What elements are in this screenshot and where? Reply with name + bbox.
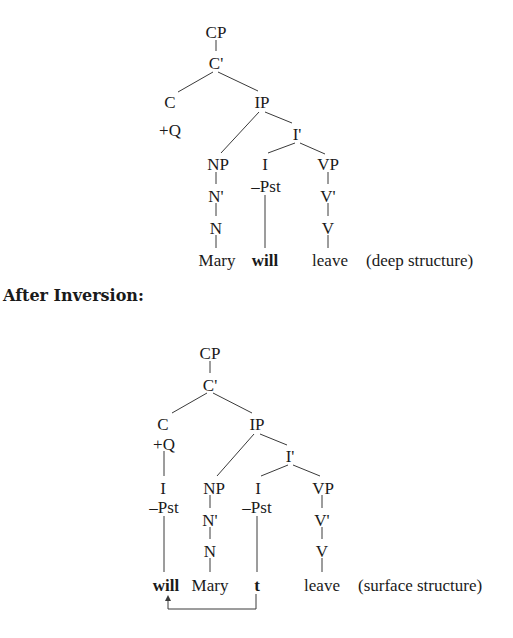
word-mary: Mary [199, 251, 236, 270]
surface-structure-tree: CP C' C +Q IP I' I –Pst NP I –Pst VP N' … [148, 344, 482, 609]
node-ibar: I' [286, 447, 295, 466]
node-c: C [164, 93, 175, 112]
deep-structure-label: (deep structure) [366, 251, 473, 270]
node-ip: IP [254, 93, 269, 112]
node-cbar: C' [203, 376, 217, 395]
node-cp: CP [200, 344, 221, 363]
edge-ibar-vp [293, 465, 320, 476]
node-moved-i: I [160, 479, 166, 498]
edge-ip-ibar [260, 434, 287, 445]
word-mary: Mary [192, 576, 229, 595]
node-moved-i-feature: –Pst [148, 498, 179, 517]
node-c-feature: +Q [153, 435, 175, 454]
node-cp: CP [206, 23, 227, 42]
edge-ip-ibar [265, 112, 292, 123]
node-np: NP [203, 479, 225, 498]
node-np: NP [207, 155, 229, 174]
edge-ip-np [221, 112, 259, 153]
edge-cbar-ip [213, 393, 252, 413]
node-i: I [262, 155, 268, 174]
edge-ip-np [217, 434, 254, 476]
node-nbar: N' [202, 511, 217, 530]
movement-arrow-icon [165, 594, 256, 609]
node-vbar: V' [314, 511, 329, 530]
node-ip: IP [249, 415, 264, 434]
edge-ibar-i [261, 465, 288, 476]
syntax-trees-canvas: CP C' C +Q IP I' NP I –Pst VP N' V' N V … [0, 0, 513, 638]
edge-cbar-ip [218, 72, 258, 91]
node-vp: VP [317, 155, 339, 174]
node-i-feature: –Pst [250, 177, 281, 196]
node-vbar: V' [320, 187, 335, 206]
edge-ibar-i [268, 143, 295, 153]
node-vp: VP [312, 479, 334, 498]
node-nbar: N' [208, 187, 223, 206]
word-leave: leave [312, 251, 348, 270]
edge-cbar-c [178, 72, 213, 92]
surface-structure-label: (surface structure) [358, 576, 482, 595]
edge-ibar-vp [300, 143, 325, 154]
section-heading-after-inversion: After Inversion: [3, 286, 144, 305]
edge-cbar-c [172, 393, 207, 413]
node-n: N [210, 219, 222, 238]
node-i: I [255, 479, 261, 498]
word-will: will [252, 251, 279, 270]
word-trace: t [254, 576, 260, 595]
node-c: C [157, 415, 168, 434]
node-v: V [322, 219, 335, 238]
word-leave: leave [304, 576, 340, 595]
node-ibar: I' [293, 125, 302, 144]
word-will: will [153, 576, 180, 595]
node-v: V [316, 542, 329, 561]
deep-structure-tree: CP C' C +Q IP I' NP I –Pst VP N' V' N V … [159, 23, 473, 270]
node-i-feature: –Pst [241, 498, 272, 517]
node-n: N [204, 542, 216, 561]
node-cbar: C' [209, 54, 223, 73]
node-c-feature: +Q [159, 121, 181, 140]
